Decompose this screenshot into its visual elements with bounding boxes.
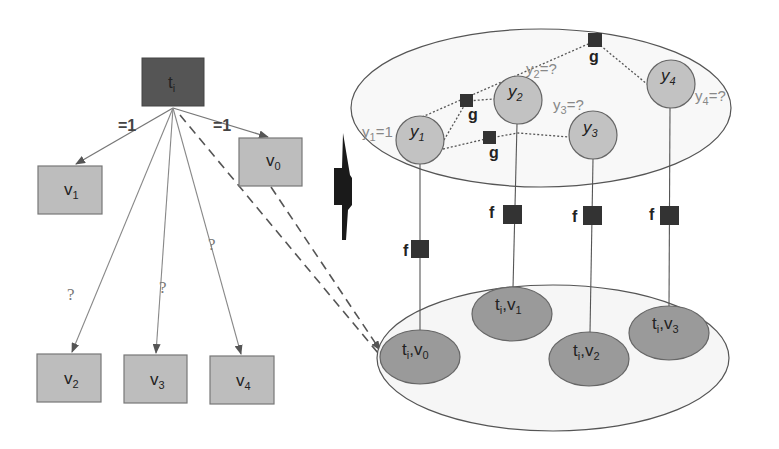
f-factor: f bbox=[649, 206, 679, 225]
edge-ti-v3 bbox=[156, 108, 173, 353]
svg-text:f: f bbox=[489, 204, 495, 221]
edge-label-v0: =1 bbox=[213, 117, 231, 134]
candidate-node-v1: v1 bbox=[38, 166, 102, 214]
candidate-node-v2: v2 bbox=[37, 354, 101, 402]
svg-text:f: f bbox=[572, 208, 578, 225]
factor-graph: g g g y1 y2 y3 y4 y1=1 y2=? y3=? bbox=[351, 29, 731, 431]
diagram-canvas: ti v1 v0 v2 v3 v4 =1 =1 ? ? bbox=[0, 0, 779, 449]
candidate-node-v4: v4 bbox=[210, 356, 274, 404]
pair-node-ti-v1: ti,v1 bbox=[472, 287, 552, 341]
f-factor: f bbox=[403, 240, 429, 259]
edge-ti-v2 bbox=[72, 108, 173, 352]
candidate-tree: ti v1 v0 v2 v3 v4 =1 =1 ? ? bbox=[37, 58, 380, 404]
edge-label-v2: ? bbox=[67, 285, 75, 304]
svg-text:f: f bbox=[649, 206, 655, 223]
candidate-node-v0: v0 bbox=[239, 138, 302, 186]
mapping-dashed-line bbox=[271, 187, 380, 350]
label-node-y3: y3 bbox=[569, 111, 617, 159]
svg-text:g: g bbox=[589, 48, 599, 65]
svg-text:g: g bbox=[468, 106, 478, 123]
candidate-node-v3: v3 bbox=[124, 355, 187, 403]
svg-text:f: f bbox=[403, 242, 409, 259]
svg-text:g: g bbox=[489, 144, 499, 161]
transform-arrow-icon bbox=[334, 133, 352, 240]
edge-label-v1: =1 bbox=[118, 117, 136, 134]
label-node-y4: y4 bbox=[647, 60, 695, 108]
pair-node-ti-v3: ti,v3 bbox=[629, 306, 709, 360]
pair-node-ti-v0: ti,v0 bbox=[380, 330, 460, 384]
root-node-ti: ti bbox=[142, 58, 204, 106]
label-node-y1: y1 bbox=[396, 116, 444, 164]
label-node-y2: y2 bbox=[494, 76, 542, 124]
f-factor: f bbox=[489, 204, 522, 224]
f-factor: f bbox=[572, 206, 602, 225]
edge-label-v3: ? bbox=[159, 278, 167, 297]
edge-label-v4: ? bbox=[208, 235, 216, 254]
edge-ti-v4 bbox=[173, 108, 241, 354]
pair-node-ti-v2: ti,v2 bbox=[549, 332, 629, 386]
